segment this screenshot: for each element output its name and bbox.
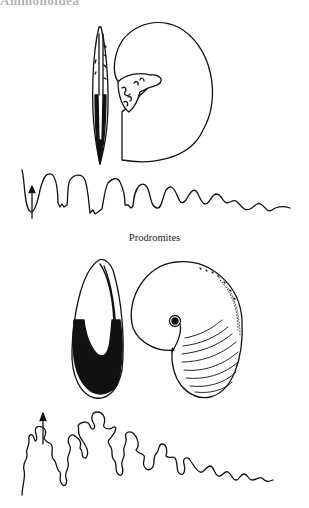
fig2-suture-line [22, 412, 273, 495]
fig1-lateral-view [114, 23, 212, 162]
fig2-lateral-view [131, 262, 242, 398]
illustration-plate [0, 0, 309, 508]
figure-caption-prodromites: Prodromites [0, 232, 309, 243]
fig1-apertural-view [93, 27, 108, 164]
fig2-apertural-view [72, 259, 123, 398]
fig1-suture-line [22, 170, 290, 218]
